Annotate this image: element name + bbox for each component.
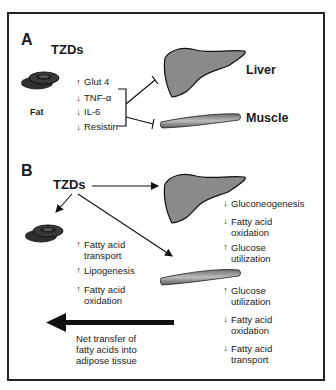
- up-arrow-icon: ↑: [75, 265, 82, 276]
- muscle-icon-a: [160, 114, 240, 128]
- muscle-effect-glucose-utilization: ↑ Glucoseutilization: [222, 285, 271, 307]
- net-transfer-caption: Net transfer of fatty acids into adipose…: [76, 333, 137, 366]
- panel-a-drug-label: TZDs: [51, 44, 84, 55]
- fat-marker-resistin: ↓Resistin: [75, 121, 118, 133]
- liver-label: Liver: [246, 65, 276, 76]
- fat-marker-tnf: ↓TNF-α: [75, 92, 111, 104]
- panel-a-label: A: [21, 34, 33, 45]
- down-arrow-icon: ↓: [222, 314, 229, 325]
- liver-effect-fa-oxidation: ↓ Fatty acidoxidation: [222, 216, 272, 238]
- liver-effect-glucose-utilization: ↑ Glucoseutilization: [222, 242, 271, 264]
- down-arrow-icon: ↓: [75, 107, 82, 118]
- up-arrow-icon: ↑: [75, 239, 82, 250]
- fat-marker-il6: ↓IL-6: [75, 106, 100, 118]
- down-arrow-icon: ↓: [222, 216, 229, 227]
- panel-b-drug-label: TZDs: [53, 179, 86, 190]
- muscle-label: Muscle: [246, 113, 288, 124]
- muscle-effect-fa-oxidation: ↓ Fatty acidoxidation: [222, 314, 272, 336]
- bracket-icon: [117, 76, 158, 129]
- net-transfer-arrow-icon: [46, 313, 174, 332]
- fat-label-a: Fat: [30, 107, 44, 118]
- down-arrow-icon: ↓: [222, 198, 229, 209]
- up-arrow-icon: ↑: [222, 285, 229, 296]
- liver-effect-gluconeogenesis: ↓ Gluconeogenesis: [222, 198, 304, 209]
- liver-icon-a: [164, 48, 245, 97]
- down-arrow-icon: ↓: [75, 93, 82, 104]
- diagram-artwork: [0, 0, 336, 390]
- adipose-effect-fa-transport: ↑ Fatty acidtransport: [75, 239, 125, 261]
- adipose-effect-fa-oxidation: ↑ Fatty acidoxidation: [75, 284, 125, 306]
- fat-marker-glut4: ↑Glut 4: [75, 76, 109, 88]
- fat-cells-icon-a: [21, 72, 59, 90]
- up-arrow-icon: ↑: [75, 284, 82, 295]
- up-arrow-icon: ↑: [75, 77, 82, 88]
- fat-cells-icon-b: [25, 225, 63, 243]
- muscle-icon-b: [160, 269, 240, 285]
- panel-b-label: B: [21, 165, 33, 176]
- muscle-effect-fa-transport: ↓ Fatty acidtransport: [222, 343, 272, 365]
- down-arrow-icon: ↓: [222, 343, 229, 354]
- up-arrow-icon: ↑: [222, 242, 229, 253]
- adipose-effect-lipogenesis: ↑ Lipogenesis: [75, 265, 135, 276]
- down-arrow-icon: ↓: [75, 122, 82, 133]
